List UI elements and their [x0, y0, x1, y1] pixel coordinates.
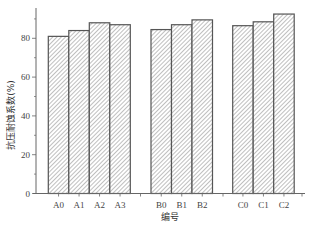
x-tick-label: A1	[74, 200, 85, 210]
bar-A1	[69, 31, 90, 194]
bars-group	[48, 14, 294, 193]
bar-B0	[151, 30, 172, 194]
bar-C0	[233, 26, 254, 194]
bar-B1	[172, 25, 193, 194]
x-tick-label: A3	[115, 200, 126, 210]
bar-A2	[89, 23, 110, 194]
bar-A3	[110, 25, 131, 194]
y-tick-label: 40	[21, 111, 31, 121]
bar-C2	[274, 14, 295, 193]
x-tick-label: C2	[279, 200, 290, 210]
y-tick-label: 20	[21, 150, 31, 160]
y-axis-title: 抗压耐蚀系数(%)	[5, 80, 16, 150]
x-tick-label: B1	[176, 200, 187, 210]
x-axis-title: 编号	[161, 211, 179, 222]
bar-A0	[48, 36, 69, 193]
x-tick-label: A2	[94, 200, 105, 210]
x-tick-label: C1	[258, 200, 269, 210]
y-tick-label: 80	[21, 33, 31, 43]
bar-chart: A0A1A2A3B0B1B2C0C1C2020406080编号抗压耐蚀系数(%)	[0, 0, 312, 233]
bar-B2	[192, 20, 213, 194]
x-tick-label: B0	[156, 200, 167, 210]
x-tick-label: C0	[238, 200, 249, 210]
x-tick-label: A0	[53, 200, 64, 210]
y-tick-label: 0	[26, 189, 31, 199]
bar-C1	[253, 22, 274, 194]
x-tick-label: B2	[197, 200, 208, 210]
y-tick-label: 60	[21, 72, 31, 82]
